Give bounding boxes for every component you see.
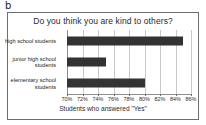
bar-row: high school students — [67, 30, 191, 51]
chart-title: Do you think you are kind to others? — [8, 16, 198, 26]
bar-row: elementary school students — [67, 73, 191, 94]
bar-row: junior high school students — [67, 51, 191, 72]
category-label: elementary school students — [0, 77, 56, 90]
gridline-86 — [191, 30, 192, 94]
x-axis-title: Students who answered "Yes" — [8, 105, 198, 113]
category-label: junior high school students — [0, 56, 56, 69]
category-label: high school students — [0, 37, 56, 43]
x-axis-ticks: 70%72%74%76%78%80%82%84%86% — [67, 96, 191, 104]
panel-label: b — [5, 0, 11, 12]
plot-area: high school studentsjunior high school s… — [67, 30, 191, 94]
chart-panel: Do you think you are kind to others? hig… — [7, 12, 199, 120]
bar[interactable] — [67, 36, 183, 45]
bar[interactable] — [67, 57, 106, 66]
bar[interactable] — [67, 79, 145, 88]
tick-label: 86% — [180, 96, 202, 103]
